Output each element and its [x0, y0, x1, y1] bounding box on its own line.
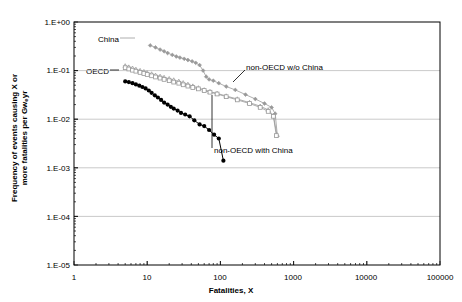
- chart-container: Frequency of events causing X or more fa…: [0, 0, 462, 302]
- data-point-marker: [162, 49, 166, 53]
- data-point-marker: [211, 79, 215, 83]
- data-point-marker: [202, 89, 206, 93]
- data-point-marker: [182, 57, 186, 61]
- data-point-marker: [190, 59, 194, 63]
- data-point-marker: [188, 114, 192, 118]
- data-point-marker: [178, 56, 182, 60]
- data-point-marker: [162, 78, 166, 82]
- data-point-marker: [235, 98, 239, 102]
- data-point-marker: [134, 69, 138, 73]
- data-point-marker: [127, 80, 131, 84]
- data-point-marker: [266, 110, 270, 114]
- data-point-marker: [197, 87, 201, 91]
- plot-frame: [74, 22, 440, 265]
- data-point-marker: [167, 79, 171, 83]
- data-point-marker: [166, 51, 170, 55]
- data-point-marker: [192, 118, 196, 122]
- series-non-oecd-w-o-china: [123, 66, 278, 138]
- data-point-marker: [258, 106, 262, 110]
- data-point-marker: [170, 53, 174, 57]
- data-point-marker: [191, 86, 195, 90]
- data-point-marker: [123, 79, 127, 83]
- series-china: [148, 44, 279, 139]
- data-point-marker: [217, 81, 221, 85]
- data-point-marker: [198, 63, 202, 67]
- data-point-marker: [201, 69, 205, 73]
- data-point-marker: [181, 83, 185, 87]
- data-point-marker: [224, 95, 228, 99]
- data-point-marker: [207, 128, 211, 132]
- data-point-marker: [172, 107, 176, 111]
- data-point-marker: [194, 61, 198, 65]
- data-point-marker: [221, 159, 225, 163]
- data-point-marker: [272, 114, 276, 118]
- data-point-marker: [233, 88, 237, 92]
- data-point-marker: [224, 85, 228, 89]
- data-point-marker: [158, 76, 162, 80]
- data-point-marker: [158, 48, 162, 52]
- data-point-marker: [215, 92, 219, 96]
- data-point-marker: [174, 55, 178, 59]
- data-point-marker: [177, 81, 181, 85]
- data-point-marker: [154, 75, 158, 79]
- gridlines: [74, 71, 440, 217]
- annotation-leader-lines: [110, 38, 245, 148]
- data-point-marker: [217, 136, 221, 140]
- axis-ticks: [74, 22, 440, 265]
- data-point-marker: [138, 71, 142, 75]
- data-point-marker: [202, 124, 206, 128]
- data-point-marker: [208, 90, 212, 94]
- series-layer: [123, 44, 279, 163]
- data-point-marker: [186, 84, 190, 88]
- data-point-marker: [172, 80, 176, 84]
- data-point-marker: [179, 111, 183, 115]
- data-point-marker: [253, 97, 257, 101]
- data-point-marker: [248, 102, 252, 106]
- data-point-marker: [244, 93, 248, 97]
- data-point-marker: [150, 74, 154, 78]
- data-point-marker: [127, 67, 131, 71]
- data-point-marker: [212, 133, 216, 137]
- data-point-marker: [270, 106, 274, 110]
- data-point-marker: [183, 112, 187, 116]
- data-point-marker: [154, 46, 158, 50]
- data-point-marker: [263, 102, 267, 106]
- data-point-marker: [198, 122, 202, 126]
- data-point-marker: [148, 44, 152, 48]
- data-point-marker: [186, 58, 190, 62]
- data-point-marker: [176, 109, 180, 113]
- chart-plot: [0, 0, 462, 302]
- leader-line-non-oecd-wo-china: [233, 70, 245, 82]
- data-point-marker: [274, 134, 278, 138]
- data-point-marker: [145, 73, 149, 77]
- series-line: [150, 45, 277, 136]
